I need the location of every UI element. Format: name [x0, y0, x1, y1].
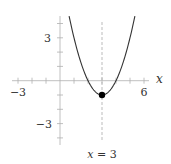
sym-label-rest: = 3	[94, 148, 117, 161]
vertex-point	[99, 92, 105, 98]
y-tick-label-neg3: −3	[36, 118, 52, 131]
chart-container: x −3 6 3 −3 x = 3	[0, 0, 171, 164]
axis-of-symmetry-label: x = 3	[87, 148, 116, 161]
x-tick-label-neg3: −3	[10, 86, 26, 99]
parabola-plot: x −3 6 3 −3 x = 3	[0, 0, 171, 164]
axes	[12, 16, 149, 145]
x-axis-label: x	[156, 72, 163, 86]
x-tick-label-6: 6	[141, 86, 148, 99]
y-tick-label-3: 3	[44, 32, 51, 45]
